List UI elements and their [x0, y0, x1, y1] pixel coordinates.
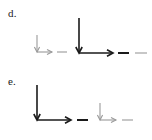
arrow-group-e-group-2 — [97, 103, 133, 123]
row-label-d: d. — [8, 8, 17, 19]
row-label-e: e. — [8, 76, 16, 87]
row-e-arrows — [34, 85, 133, 123]
arrow-group-d-group-2 — [76, 18, 147, 56]
row-d-arrows — [34, 18, 147, 56]
arrow-diagram-figure: d. e. — [0, 0, 152, 140]
arrow-group-d-group-1 — [34, 35, 67, 55]
arrow-diagram-canvas — [0, 0, 152, 140]
arrow-group-e-group-1 — [34, 85, 88, 123]
